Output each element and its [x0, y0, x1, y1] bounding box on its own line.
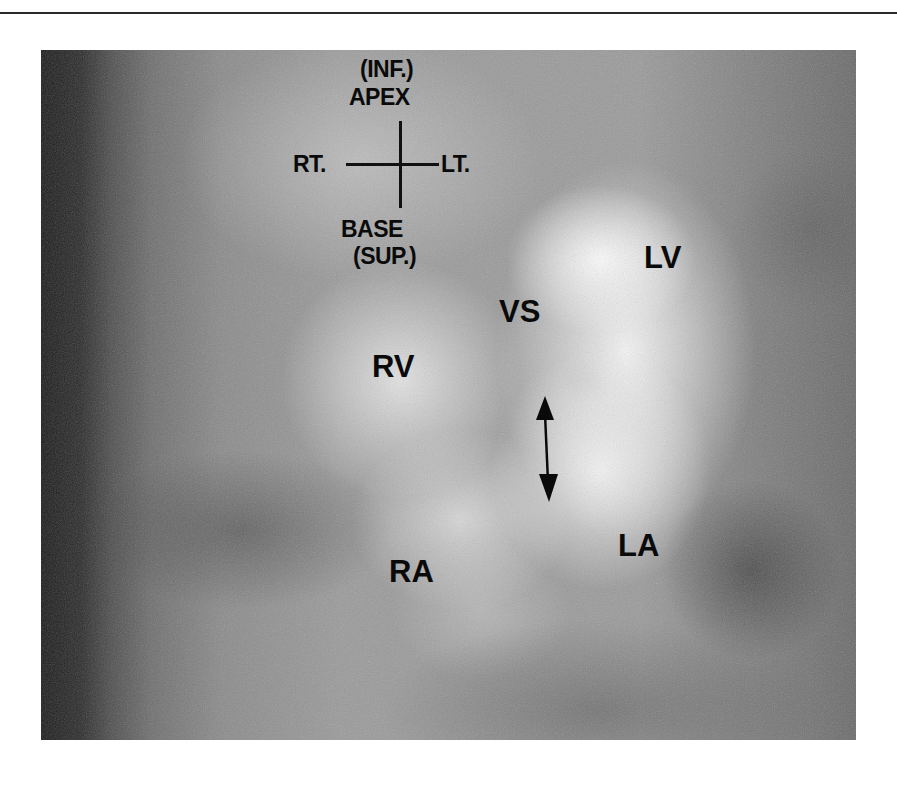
top-rule	[0, 12, 897, 14]
double-headed-arrow-icon	[534, 394, 560, 504]
orientation-apex-label: APEX	[349, 86, 410, 109]
orientation-inferior-label: (INF.)	[360, 58, 413, 81]
label-ventricular-septum: VS	[499, 296, 540, 327]
orientation-left-label: LT.	[441, 153, 470, 176]
label-right-atrium: RA	[389, 556, 434, 587]
label-right-ventricle: RV	[372, 351, 415, 382]
label-left-atrium: LA	[618, 530, 659, 561]
orientation-cross-horizontal	[346, 163, 439, 166]
label-left-ventricle: LV	[644, 242, 681, 273]
orientation-right-label: RT.	[293, 153, 326, 176]
orientation-base-label: BASE	[341, 218, 403, 241]
orientation-superior-label: (SUP.)	[353, 245, 416, 268]
